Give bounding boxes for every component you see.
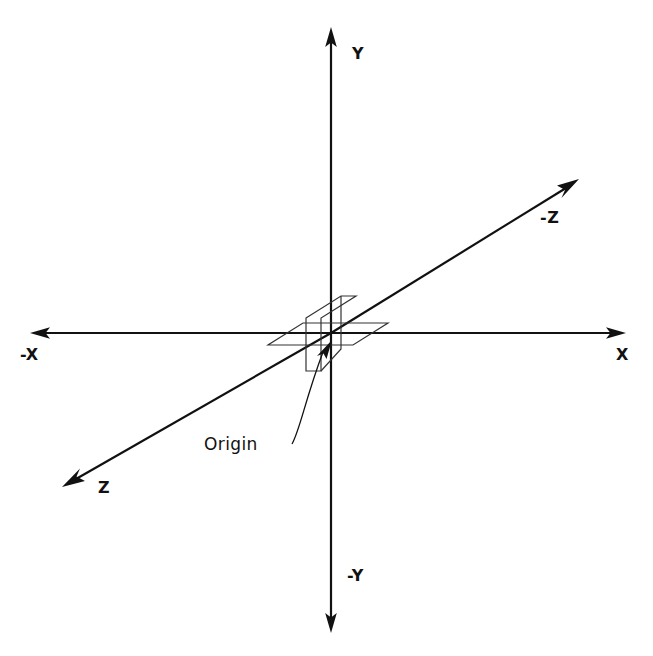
axis-z-negative: [331, 179, 579, 333]
axis-x-negative: [30, 327, 331, 339]
origin-leader-line: [292, 340, 332, 444]
axis-z-positive: [62, 333, 331, 487]
axis-y-positive: [325, 27, 337, 333]
axis-label-negative-y: -Y: [347, 566, 364, 585]
axis-label-negative-z: -Z: [540, 208, 559, 227]
axis-label-x: X: [616, 345, 629, 364]
axis-label-z: Z: [98, 478, 110, 497]
axis-x-positive: [331, 327, 626, 339]
axes-drawing: [0, 0, 653, 656]
origin-annotation-label: Origin: [204, 434, 258, 454]
axis-label-y: Y: [352, 44, 364, 63]
axis-y-negative: [325, 333, 337, 633]
axis-label-negative-x: -X: [20, 345, 39, 364]
coordinate-system-diagram: Y -Y X -X -Z Z Origin: [0, 0, 653, 656]
